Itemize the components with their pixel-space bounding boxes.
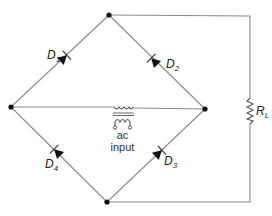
node-bottom: [104, 199, 109, 204]
diode-d4-label: D4: [45, 157, 59, 173]
source-label-line2: input: [111, 141, 135, 153]
wire-transformer-to-right: [133, 108, 205, 109]
bridge-rectifier-diagram: RL ac input D1 D2 D3 D4: [0, 0, 272, 216]
node-right: [202, 106, 207, 111]
diode-d2-icon: [147, 54, 162, 69]
diode-d2-label: D2: [166, 57, 180, 73]
resistor-icon: [247, 98, 253, 124]
diode-d3-label: D3: [164, 154, 178, 170]
diode-d1-label: D1: [47, 48, 60, 64]
source-label-line1: ac: [117, 129, 129, 141]
wire-top-to-load: [109, 15, 250, 98]
node-top: [106, 12, 111, 17]
load-label: RL: [256, 104, 269, 120]
wire-load-to-bottom: [107, 124, 250, 202]
node-left: [8, 104, 13, 109]
transformer-icon: [113, 107, 134, 129]
